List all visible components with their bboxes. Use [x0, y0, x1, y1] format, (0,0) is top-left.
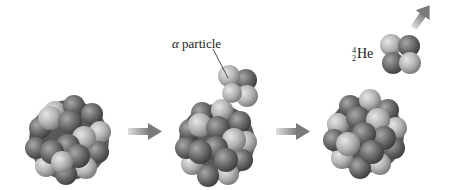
- arrow-up-right-icon: [407, 0, 437, 33]
- isotope-numbers: 42: [352, 47, 356, 63]
- diagram-graphics: [0, 0, 453, 190]
- alpha-decay-diagram: α particle 42He: [0, 0, 453, 190]
- nucleus-emitting-alpha: [173, 49, 261, 187]
- daughter-nucleus: [322, 89, 410, 179]
- helium-label: 42He: [352, 46, 373, 63]
- alpha-symbol: α: [172, 36, 179, 51]
- arrow-right-icon: [128, 123, 162, 140]
- atomic-number: 2: [352, 55, 356, 63]
- element-symbol: He: [357, 46, 373, 61]
- helium-nucleus: [380, 34, 421, 74]
- arrow-right-icon: [276, 123, 310, 140]
- alpha-particle-text: particle: [179, 36, 221, 51]
- parent-nucleus: [23, 94, 115, 186]
- alpha-particle-label: α particle: [172, 36, 221, 52]
